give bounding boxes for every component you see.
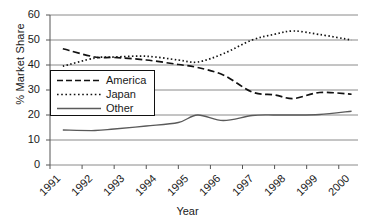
y-axis-tick-label: 50	[10, 33, 40, 45]
legend-item-other[interactable]: Other	[51, 102, 154, 115]
legend-item-america[interactable]: America	[51, 74, 154, 87]
solid-line-key	[57, 103, 101, 114]
line-chart: % Market Share Year 0102030405060 199119…	[0, 0, 375, 224]
dashed-line-key	[57, 75, 101, 86]
dotted-line-key	[57, 89, 101, 100]
legend-item-japan[interactable]: Japan	[51, 88, 154, 101]
y-axis-tick-label: 60	[10, 8, 40, 20]
x-axis-title: Year	[0, 205, 375, 217]
legend-label-america: America	[106, 75, 146, 86]
chart-legend: America Japan Other	[50, 70, 155, 116]
legend-label-japan: Japan	[106, 89, 136, 100]
y-axis-tick-label: 0	[10, 158, 40, 170]
y-axis-tick-label: 20	[10, 108, 40, 120]
y-axis-tick-label: 30	[10, 83, 40, 95]
y-axis-tick-label: 10	[10, 133, 40, 145]
series-line-japan	[63, 31, 352, 66]
legend-label-other: Other	[106, 103, 134, 114]
y-axis-tick-label: 40	[10, 58, 40, 70]
